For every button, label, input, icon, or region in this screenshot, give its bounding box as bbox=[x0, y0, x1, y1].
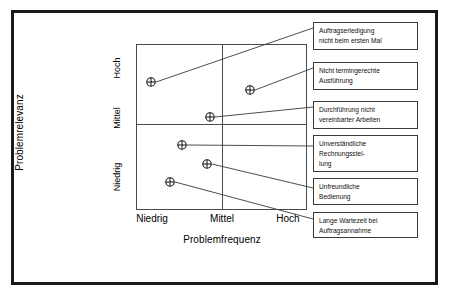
leader-line bbox=[212, 164, 313, 188]
plot-area-frame bbox=[137, 45, 307, 210]
callout-line: Auftragsannahme bbox=[319, 226, 413, 236]
callout-line: Durchführung nicht bbox=[319, 105, 413, 115]
data-point-marker[interactable] bbox=[203, 160, 211, 168]
y-tick-label-hoch: Hoch bbox=[112, 45, 122, 91]
data-point-marker[interactable] bbox=[246, 86, 254, 94]
y-tick-label-mittel: Mittel bbox=[112, 95, 122, 141]
callout-line: Ausführung bbox=[319, 76, 413, 86]
diagram-canvas: Problemrelevanz Problemfrequenz Niedrig … bbox=[0, 0, 453, 298]
callout-box[interactable]: Durchführung nichtvereinbarter Arbeiten bbox=[313, 101, 418, 129]
callout-line: lung bbox=[319, 159, 413, 169]
callout-line: Lange Wartezeit bei bbox=[319, 216, 413, 226]
leader-line bbox=[187, 145, 313, 146]
x-axis-title: Problemfrequenz bbox=[137, 234, 307, 245]
x-tick-label-mittel: Mittel bbox=[192, 213, 252, 224]
y-tick-label-niedrig: Niedrig bbox=[112, 154, 122, 200]
data-point-marker[interactable] bbox=[147, 78, 155, 86]
x-tick-label-hoch: Hoch bbox=[258, 213, 318, 224]
callout-line: Nicht termingerechte bbox=[319, 66, 413, 76]
data-point-marker[interactable] bbox=[206, 113, 214, 121]
callout-box[interactable]: Lange Wartezeit beiAuftragsannahme bbox=[313, 212, 418, 238]
callout-line: Rechnungsstel- bbox=[319, 149, 413, 159]
callout-line: vereinbarter Arbeiten bbox=[319, 115, 413, 125]
data-point-marker[interactable] bbox=[178, 141, 186, 149]
callout-line: Bedienung bbox=[319, 192, 413, 202]
leader-line bbox=[255, 68, 313, 90]
callout-line: Auftragserledigung bbox=[319, 26, 413, 36]
y-axis-title: Problemrelevanz bbox=[14, 73, 25, 193]
callout-box[interactable]: Nicht termingerechteAusführung bbox=[313, 62, 418, 90]
leader-line bbox=[156, 28, 313, 82]
callout-line: Unfreundliche bbox=[319, 182, 413, 192]
leader-line bbox=[215, 107, 313, 117]
callout-line: nicht beim ersten Mal bbox=[319, 36, 413, 46]
callout-box[interactable]: Auftragserledigungnicht beim ersten Mal bbox=[313, 22, 418, 50]
data-point-marker[interactable] bbox=[166, 178, 174, 186]
callout-line: Unverständliche bbox=[319, 139, 413, 149]
leader-lines-group bbox=[156, 28, 313, 219]
x-tick-label-niedrig: Niedrig bbox=[122, 213, 182, 224]
callout-box[interactable]: UnverständlicheRechnungsstel-lung bbox=[313, 135, 418, 172]
callout-box[interactable]: UnfreundlicheBedienung bbox=[313, 178, 418, 205]
